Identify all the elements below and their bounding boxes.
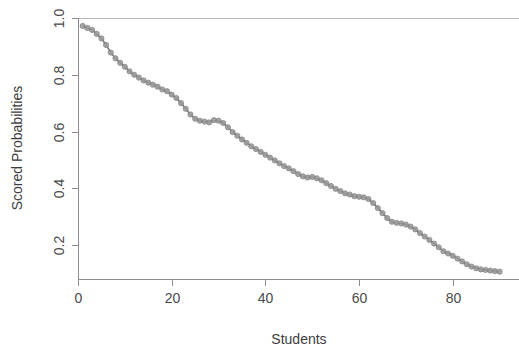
data-point bbox=[291, 169, 296, 174]
data-point bbox=[375, 206, 380, 211]
data-point bbox=[408, 224, 413, 229]
data-point bbox=[188, 112, 193, 117]
data-point bbox=[136, 75, 141, 80]
x-tick-label-40: 40 bbox=[258, 290, 274, 306]
data-point bbox=[366, 196, 371, 201]
data-point bbox=[460, 259, 465, 264]
data-point bbox=[169, 92, 174, 97]
data-point bbox=[253, 146, 258, 151]
data-point bbox=[272, 158, 277, 163]
y-axis-title: Scored Probabilities bbox=[9, 86, 25, 211]
y-axis-tick-labels: 0.20.40.60.81.0 bbox=[51, 9, 67, 256]
data-point bbox=[118, 60, 123, 65]
data-point bbox=[94, 31, 99, 36]
data-point bbox=[450, 253, 455, 258]
data-point bbox=[328, 183, 333, 188]
data-point bbox=[413, 227, 418, 232]
data-point bbox=[371, 200, 376, 205]
data-point bbox=[202, 119, 207, 124]
x-axis-tick-labels: 020406080 bbox=[75, 290, 462, 306]
data-point bbox=[319, 178, 324, 183]
data-point bbox=[174, 95, 179, 100]
scored-probabilities-line-chart: 0.20.40.60.81.0 020406080 Students Score… bbox=[0, 0, 519, 355]
data-point bbox=[422, 234, 427, 239]
data-point bbox=[277, 161, 282, 166]
series-line-scored-probabilities bbox=[83, 26, 500, 272]
x-tick-label-0: 0 bbox=[75, 290, 83, 306]
data-point bbox=[497, 269, 502, 274]
x-tick-label-80: 80 bbox=[446, 290, 462, 306]
data-point bbox=[164, 89, 169, 94]
data-point bbox=[225, 125, 230, 130]
y-tick-label-0.4: 0.4 bbox=[51, 179, 67, 199]
data-point bbox=[89, 27, 94, 32]
data-point bbox=[244, 140, 249, 145]
y-tick-label-0.8: 0.8 bbox=[51, 66, 67, 86]
data-point bbox=[127, 69, 132, 74]
data-point bbox=[249, 144, 254, 149]
y-tick-label-0.6: 0.6 bbox=[51, 123, 67, 143]
data-point bbox=[258, 149, 263, 154]
data-point bbox=[104, 42, 109, 47]
series-points-scored-probabilities bbox=[80, 23, 502, 274]
data-point bbox=[108, 50, 113, 55]
data-point bbox=[455, 256, 460, 261]
y-tick-label-1.0: 1.0 bbox=[51, 9, 67, 29]
data-point bbox=[221, 120, 226, 125]
data-point bbox=[239, 137, 244, 142]
data-point bbox=[436, 245, 441, 250]
data-point bbox=[99, 36, 104, 41]
data-point bbox=[385, 215, 390, 220]
x-axis-title: Students bbox=[271, 331, 326, 347]
data-point bbox=[113, 56, 118, 61]
x-tick-label-60: 60 bbox=[352, 290, 368, 306]
data-point bbox=[431, 241, 436, 246]
data-point bbox=[324, 181, 329, 186]
chart-figure: 0.20.40.60.81.0 020406080 Students Score… bbox=[0, 0, 519, 355]
data-point bbox=[122, 64, 127, 69]
data-point bbox=[286, 166, 291, 171]
data-point bbox=[197, 118, 202, 123]
data-point bbox=[417, 230, 422, 235]
data-point bbox=[230, 129, 235, 134]
data-point bbox=[263, 152, 268, 157]
data-point bbox=[427, 237, 432, 242]
y-tick-label-0.2: 0.2 bbox=[51, 236, 67, 256]
data-point bbox=[342, 191, 347, 196]
data-point bbox=[132, 72, 137, 77]
data-point bbox=[380, 211, 385, 216]
x-tick-label-20: 20 bbox=[165, 290, 181, 306]
data-point bbox=[178, 101, 183, 106]
data-point bbox=[155, 84, 160, 89]
data-point bbox=[235, 133, 240, 138]
data-point bbox=[183, 106, 188, 111]
data-point bbox=[267, 155, 272, 160]
